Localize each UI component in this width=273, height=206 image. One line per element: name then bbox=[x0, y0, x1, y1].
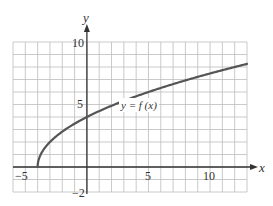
y-tick-label-10: 10 bbox=[72, 36, 84, 50]
x-tick-label-10: 10 bbox=[203, 169, 215, 183]
x-tick-label-5: 5 bbox=[145, 169, 151, 183]
x-tick-label-neg5: −5 bbox=[15, 169, 28, 183]
x-axis-label: x bbox=[258, 160, 265, 175]
y-tick-label-neg2: −2 bbox=[72, 186, 85, 200]
x-axis-arrow-icon bbox=[250, 164, 258, 170]
y-axis-arrow-icon bbox=[84, 24, 90, 32]
y-tick-label-5: 5 bbox=[77, 97, 83, 111]
curve-label: y = f (x) bbox=[120, 99, 157, 112]
y-axis-label: y bbox=[81, 10, 89, 25]
function-graph: x y −5 5 10 10 5 −2 y = f (x) bbox=[0, 0, 273, 206]
